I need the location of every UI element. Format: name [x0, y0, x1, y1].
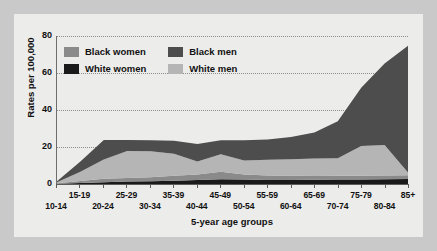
- legend-label: White men: [189, 64, 237, 74]
- x-label-40-44: 40-44: [186, 201, 207, 211]
- y-tick-80: 80: [10, 31, 52, 40]
- x-label-85+: 85+: [401, 190, 415, 200]
- legend-swatch-icon: [64, 64, 79, 74]
- x-label-65-69: 65-69: [303, 190, 324, 200]
- x-label-30-34: 30-34: [139, 201, 160, 211]
- legend-swatch-icon: [168, 64, 183, 74]
- x-label-35-39: 35-39: [163, 190, 184, 200]
- legend-swatch-icon: [64, 47, 79, 57]
- x-axis-labels: 10-1415-1920-2425-2930-3435-3940-4445-49…: [0, 188, 437, 218]
- legend-item-white-men[interactable]: White men: [168, 64, 237, 74]
- x-label-75-79: 75-79: [350, 190, 371, 200]
- y-tick-60: 60: [10, 68, 52, 77]
- x-label-25-29: 25-29: [116, 190, 137, 200]
- x-label-55-59: 55-59: [256, 190, 277, 200]
- x-label-80-84: 80-84: [374, 201, 395, 211]
- x-label-15-19: 15-19: [69, 190, 90, 200]
- x-label-45-49: 45-49: [210, 190, 231, 200]
- chart-legend: Black women Black men White women White …: [64, 44, 237, 76]
- legend-swatch-icon: [168, 47, 183, 57]
- x-label-10-14: 10-14: [45, 201, 66, 211]
- y-tick-20: 20: [10, 142, 52, 151]
- x-label-20-24: 20-24: [92, 201, 113, 211]
- y-tick-0: 0: [10, 179, 52, 188]
- legend-label: White women: [85, 64, 146, 74]
- legend-label: Black men: [189, 47, 237, 57]
- chart-figure: Rates per 100,000 80 60 40 20 0 Black wo…: [0, 0, 437, 251]
- legend-label: Black women: [85, 47, 146, 57]
- legend-item-white-women[interactable]: White women: [64, 64, 146, 74]
- x-label-50-54: 50-54: [233, 201, 254, 211]
- x-label-70-74: 70-74: [327, 201, 348, 211]
- legend-item-black-women[interactable]: Black women: [64, 47, 146, 57]
- x-axis-title: 5-year age groups: [56, 216, 408, 227]
- legend-item-black-men[interactable]: Black men: [168, 47, 237, 57]
- x-label-60-64: 60-64: [280, 201, 301, 211]
- y-tick-40: 40: [10, 105, 52, 114]
